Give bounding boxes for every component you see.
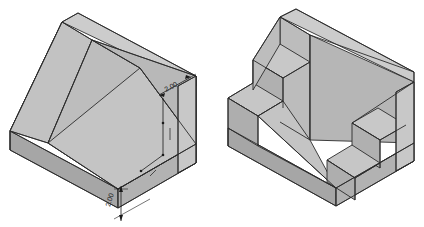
right-end-outer-face (396, 82, 414, 171)
inner-leader-node-mid (162, 154, 165, 157)
inner-leader-node-end (140, 170, 143, 173)
left-right-outer-face (178, 76, 196, 173)
inner-leader-node-top (162, 122, 165, 125)
isometric-drawing-canvas: 2.00 2.00 (0, 0, 424, 227)
